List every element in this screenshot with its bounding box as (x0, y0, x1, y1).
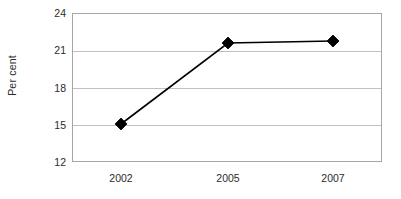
x-tick-label-2002: 2002 (109, 172, 132, 184)
data-point-2002 (115, 118, 127, 130)
data-point-2007 (327, 35, 339, 47)
x-tick-label-2005: 2005 (216, 172, 239, 184)
series-line (121, 41, 333, 124)
data-series-layer (0, 0, 401, 199)
data-point-2005 (222, 37, 234, 49)
x-tick-label-2007: 2007 (321, 172, 344, 184)
line-chart: Per cent 12 15 18 21 24 2002 2005 2007 (0, 0, 401, 199)
